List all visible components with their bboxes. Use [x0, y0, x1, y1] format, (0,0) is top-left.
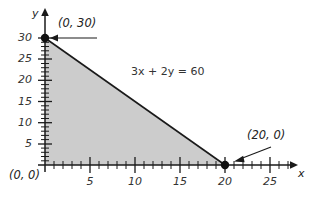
y-tick-label-30: 30 [0, 32, 32, 43]
y-tick-label-20: 20 [0, 74, 32, 85]
callout-arrow-x-intercept [234, 147, 271, 162]
coordinate-plane-figure: y x 30 25 20 15 10 5 5 10 15 20 25 (0, 3… [0, 0, 313, 197]
annotation-line-equation: 3x + 2y = 60 [131, 66, 204, 77]
annotation-y-intercept: (0, 30) [58, 18, 96, 30]
point-marker-x-intercept [221, 161, 229, 169]
y-axis-label: y [32, 8, 39, 19]
plot-area [0, 0, 313, 197]
y-tick-label-10: 10 [0, 117, 32, 128]
annotation-origin: (0, 0) [9, 170, 40, 182]
x-axis-arrowhead [290, 161, 298, 169]
x-tick-label-15: 15 [160, 176, 200, 187]
x-tick-label-5: 5 [70, 176, 110, 187]
x-tick-label-10: 10 [115, 176, 155, 187]
y-tick-label-25: 25 [0, 53, 32, 64]
callout-arrow-y-intercept [50, 35, 97, 42]
y-tick-label-15: 15 [0, 96, 32, 107]
x-tick-label-20: 20 [205, 176, 245, 187]
y-tick-label-5: 5 [0, 138, 32, 149]
x-axis-label: x [298, 168, 305, 179]
point-marker-y-intercept [41, 34, 49, 42]
y-axis-arrowhead [41, 8, 49, 16]
annotation-x-intercept: (20, 0) [247, 130, 285, 142]
x-tick-label-25: 25 [250, 176, 290, 187]
